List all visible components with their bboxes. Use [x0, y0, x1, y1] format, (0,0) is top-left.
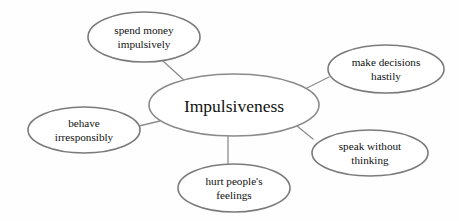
- branch-label-line2-spend-money-impulsively: impulsively: [118, 38, 171, 50]
- branch-label-line2-hurt-peoples-feelings: feelings: [216, 189, 251, 201]
- branch-label-line1-spend-money-impulsively: spend money: [114, 24, 174, 36]
- branch-node-speak-without-thinking[interactable]: speak without thinking: [312, 130, 428, 176]
- connector-spend-money-impulsively: [163, 61, 186, 82]
- branch-label-line2-behave-irresponsibly: irresponsibly: [55, 131, 114, 143]
- branch-ellipse-behave-irresponsibly: [28, 107, 140, 153]
- branch-node-hurt-peoples-feelings[interactable]: hurt people's feelings: [178, 164, 290, 212]
- branch-node-make-decisions-hastily[interactable]: make decisions hastily: [328, 45, 444, 93]
- branch-ellipse-hurt-peoples-feelings: [178, 164, 290, 212]
- connector-behave-irresponsibly: [139, 121, 160, 126]
- center-node[interactable]: Impulsiveness: [149, 74, 319, 136]
- center-node-label: Impulsiveness: [184, 96, 284, 116]
- branch-ellipse-spend-money-impulsively: [88, 12, 200, 62]
- branch-ellipse-speak-without-thinking: [312, 130, 428, 176]
- mind-map-canvas: Impulsiveness spend money impulsively ma…: [0, 0, 459, 221]
- connector-make-decisions-hastily: [307, 77, 329, 88]
- mind-map-diagram: Impulsiveness spend money impulsively ma…: [0, 0, 459, 221]
- branch-node-behave-irresponsibly[interactable]: behave irresponsibly: [28, 107, 140, 153]
- branch-ellipse-make-decisions-hastily: [328, 45, 444, 93]
- branch-label-line1-behave-irresponsibly: behave: [68, 117, 100, 129]
- branch-label-line1-make-decisions-hastily: make decisions: [352, 56, 421, 68]
- branch-label-line1-speak-without-thinking: speak without: [339, 140, 402, 152]
- branch-label-line2-speak-without-thinking: thinking: [351, 154, 389, 166]
- branch-label-line1-hurt-peoples-feelings: hurt people's: [205, 175, 262, 187]
- branch-label-line2-make-decisions-hastily: hastily: [371, 70, 401, 82]
- connector-speak-without-thinking: [297, 126, 313, 139]
- branch-node-spend-money-impulsively[interactable]: spend money impulsively: [88, 12, 200, 62]
